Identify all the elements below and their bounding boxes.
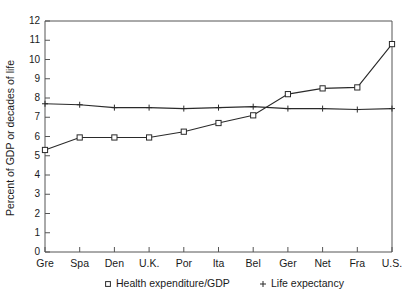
x-tick-label: Den (105, 257, 124, 269)
y-tick-label: 9 (34, 73, 40, 84)
legend-item-2: Life expectancy (260, 277, 345, 289)
data-point-marker (285, 92, 290, 97)
data-point-marker (251, 113, 256, 118)
x-tick-label: Spa (70, 257, 89, 269)
series-1 (42, 42, 394, 153)
y-tick-label: 10 (29, 54, 41, 65)
data-point-marker (355, 85, 360, 90)
x-tick-label: U.K. (139, 257, 159, 269)
data-point-marker (181, 129, 186, 134)
y-tick-label: 11 (30, 34, 41, 45)
line-chart: Percent of GDP or decades of life 012345… (0, 0, 413, 300)
data-point-marker (389, 42, 394, 47)
y-tick-label: 2 (34, 208, 40, 219)
x-tick-label: Net (314, 257, 330, 269)
legend-label: Life expectancy (271, 277, 345, 289)
x-tick-label: Fra (349, 257, 365, 269)
y-tick-label: 5 (34, 150, 40, 161)
chart-container: Percent of GDP or decades of life 012345… (0, 0, 413, 300)
y-axis-ticks: 0123456789101112 (29, 15, 50, 257)
y-tick-label: 12 (29, 15, 41, 26)
chart-legend: Health expenditure/GDPLife expectancy (106, 277, 345, 289)
x-tick-label: Por (176, 257, 193, 269)
legend-label: Health expenditure/GDP (116, 277, 230, 289)
data-point-marker (320, 86, 325, 91)
series-layer (42, 42, 395, 153)
data-point-marker (77, 135, 82, 140)
series-2 (42, 101, 395, 113)
data-point-marker (147, 135, 152, 140)
legend-item-1: Health expenditure/GDP (106, 277, 230, 289)
y-tick-label: 7 (34, 111, 40, 122)
y-tick-label: 3 (34, 188, 40, 199)
series-line-path (45, 44, 392, 150)
y-tick-label: 6 (34, 131, 40, 142)
y-tick-label: 4 (34, 169, 40, 180)
data-point-marker (216, 120, 221, 125)
data-point-marker (42, 147, 47, 152)
x-tick-label: U.S. (382, 257, 402, 269)
y-axis-title: Percent of GDP or decades of life (4, 60, 16, 216)
x-tick-label: Ita (213, 257, 225, 269)
y-tick-label: 0 (34, 246, 40, 257)
data-point-marker (112, 135, 117, 140)
legend-square-icon (106, 282, 111, 287)
y-tick-label: 8 (34, 92, 40, 103)
x-tick-label: Gre (36, 257, 54, 269)
x-axis-ticks: GreSpaDenU.K.PorItaBelGerNetFraU.S. (36, 247, 402, 269)
plot-frame (45, 21, 392, 252)
y-axis-title-text: Percent of GDP or decades of life (4, 60, 16, 216)
y-tick-label: 1 (34, 227, 40, 238)
x-tick-label: Ger (279, 257, 297, 269)
x-tick-label: Bel (246, 257, 261, 269)
